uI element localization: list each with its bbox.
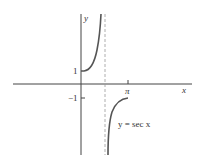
sec-graph: y x 1 −1 π y = sec x (0, 0, 199, 167)
x-tick-pi: π (125, 86, 130, 96)
y-axis-label: y (83, 13, 88, 23)
y-tick-one: 1 (73, 66, 78, 76)
y-tick-neg-one: −1 (68, 93, 78, 103)
curve-label: y = sec x (118, 119, 151, 129)
x-axis-label: x (181, 85, 186, 95)
